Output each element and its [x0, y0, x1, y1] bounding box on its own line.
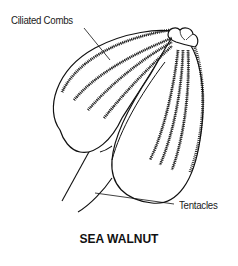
sea-walnut-illustration	[0, 0, 238, 266]
tentacles-label: Tentacles	[179, 199, 218, 211]
sea-walnut-diagram: Ciliated Combs Tentacles SEA WALNUT	[0, 0, 238, 266]
tentacles-drawing	[62, 146, 112, 212]
ciliated-combs-label: Ciliated Combs	[11, 14, 73, 26]
diagram-title: SEA WALNUT	[0, 232, 238, 246]
